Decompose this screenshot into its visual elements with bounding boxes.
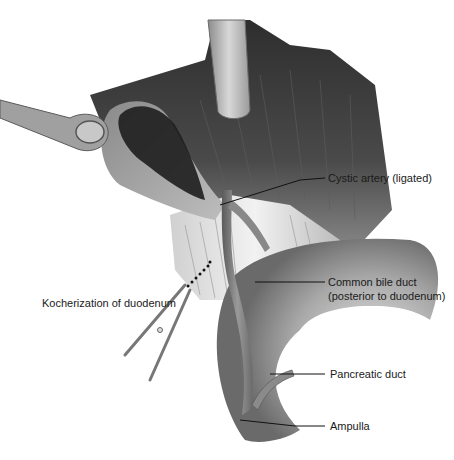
- label-cystic-artery: Cystic artery (ligated): [328, 172, 432, 185]
- label-ampulla: Ampulla: [330, 420, 370, 433]
- label-common-bile-duct: Common bile duct: [328, 276, 417, 289]
- label-pancreatic-duct: Pancreatic duct: [330, 368, 406, 381]
- label-common-bile-duct-note: (posterior to duodenum): [328, 290, 445, 303]
- anatomical-illustration: Cystic artery (ligated) Common bile duct…: [0, 0, 454, 460]
- label-kocherization: Kocherization of duodenum: [42, 297, 176, 310]
